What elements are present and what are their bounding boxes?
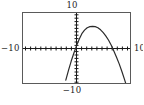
graph-figure: 10 −10 10 −10: [0, 0, 144, 105]
plot-canvas: [23, 13, 130, 83]
x-axis-min-label: −10: [1, 44, 20, 53]
y-axis-min-label: −10: [0, 86, 144, 95]
viewing-window-frame: [22, 12, 131, 84]
y-axis-max-label: 10: [0, 1, 144, 10]
plot-area: [23, 13, 130, 83]
x-axis-max-label: 10: [134, 44, 143, 53]
